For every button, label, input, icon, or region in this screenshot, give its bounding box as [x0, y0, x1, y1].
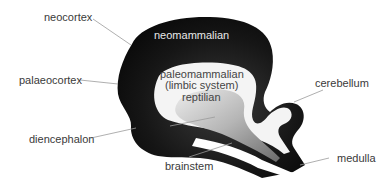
medulla-label: medulla [337, 152, 376, 164]
medulla-leader [300, 158, 329, 165]
neocortex-label: neocortex [44, 11, 93, 23]
palaeocortex-label: palaeocortex [19, 74, 82, 86]
limbic-system-label: (limbic system) [165, 79, 238, 91]
palaeocortex-leader [80, 80, 118, 84]
neocortex-leader [93, 19, 131, 45]
brainstem-label: brainstem [165, 160, 213, 172]
cerebellum-label: cerebellum [315, 77, 369, 89]
cerebellum-leader [294, 90, 323, 102]
neomammalian-label: neomammalian [154, 29, 229, 41]
diencephalon-label: diencephalon [29, 133, 94, 145]
reptilian-label: reptilian [182, 91, 221, 103]
brain-diagram: neomammalian paleomammalian (limbic syst… [0, 0, 391, 192]
diencephalon-leader [91, 128, 136, 138]
